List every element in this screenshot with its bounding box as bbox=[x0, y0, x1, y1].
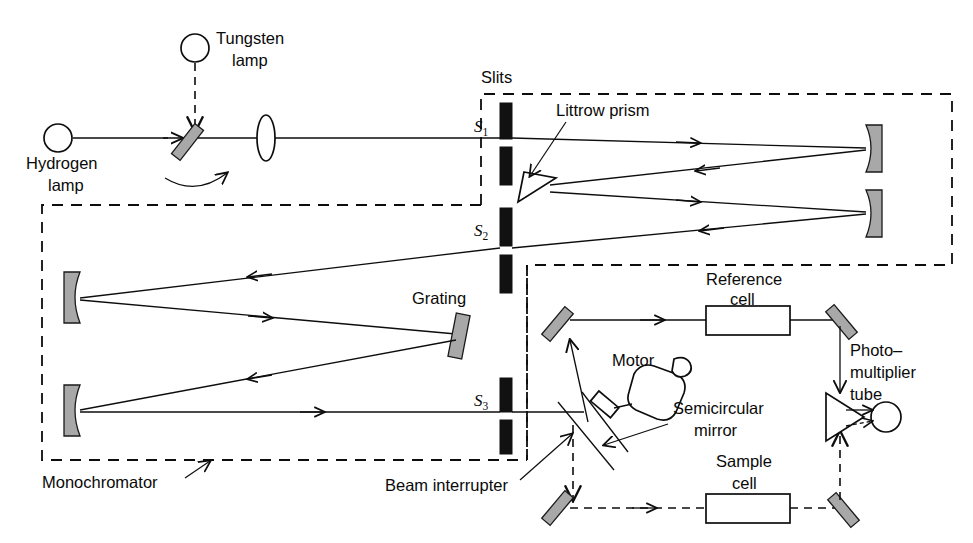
figure-canvas: Hydrogen lamp Tungsten lamp Slits S1 S2 … bbox=[0, 0, 973, 543]
pmt-label-line1: Photo– bbox=[850, 341, 903, 359]
slit-s2 bbox=[500, 208, 512, 293]
hydrogen-lamp bbox=[44, 124, 72, 152]
motor-shaft-coupler bbox=[591, 391, 619, 418]
semicircular-mirror-label-line1: Semicircular bbox=[673, 399, 764, 417]
littrow-prism-label: Littrow prism bbox=[556, 101, 650, 119]
condensing-lens bbox=[257, 115, 275, 161]
mirror-rotation-arrow bbox=[165, 173, 227, 186]
monochromator-label: Monochromator bbox=[42, 473, 158, 491]
beam-upper-mirror-to-prism bbox=[550, 150, 866, 185]
sample-cell-label-line2: cell bbox=[732, 474, 757, 492]
beam-interrupter-label: Beam interrupter bbox=[385, 476, 508, 494]
optical-diagram: Hydrogen lamp Tungsten lamp Slits S1 S2 … bbox=[0, 0, 973, 543]
rotating-mirror bbox=[171, 124, 203, 161]
beam-prism-to-lower-mirror bbox=[550, 192, 866, 212]
hydrogen-lamp-label-line2: lamp bbox=[48, 176, 84, 194]
sample-fold-mirror-left bbox=[542, 491, 574, 526]
grating-mirror-lower bbox=[64, 385, 80, 436]
grating-label: Grating bbox=[412, 289, 466, 307]
hydrogen-lamp-label-line1: Hydrogen bbox=[26, 154, 98, 172]
sample-cell-label-line1: Sample bbox=[716, 452, 772, 470]
reference-cell-label-line2: cell bbox=[730, 290, 755, 308]
reference-cell-label-line1: Reference bbox=[706, 270, 782, 288]
monochromator-leader bbox=[185, 461, 210, 478]
grating-mirror-upper bbox=[64, 272, 80, 323]
beam-lower-mirror-to-s2 bbox=[512, 214, 866, 248]
beam-upper-left-mirror-to-grating bbox=[80, 300, 456, 334]
slit-s1-label: S1 bbox=[474, 117, 489, 138]
semicircular-mirror-label-line2: mirror bbox=[694, 421, 738, 439]
beam-arrow-mono-left-2 bbox=[248, 375, 272, 379]
slits-label: Slits bbox=[481, 68, 512, 86]
grating bbox=[448, 313, 470, 359]
slit-s3-label: S3 bbox=[474, 391, 489, 412]
motor-label: Motor bbox=[612, 351, 655, 369]
beam-chopper-to-ref-mirror bbox=[570, 340, 588, 422]
pmt-label-line2: multiplier bbox=[850, 363, 917, 381]
reference-fold-mirror-right bbox=[826, 305, 858, 340]
tungsten-lamp bbox=[181, 34, 209, 62]
beam-grating-to-lower-left-mirror bbox=[80, 340, 456, 410]
pmt-label-line3: tube bbox=[850, 385, 882, 403]
littrow-prism bbox=[518, 172, 556, 202]
semicircular-mirror-leader bbox=[604, 424, 668, 445]
sample-cell bbox=[706, 494, 790, 523]
slit-s3 bbox=[500, 378, 512, 454]
slit-s1 bbox=[500, 103, 512, 185]
littrow-prism-leader bbox=[530, 122, 566, 176]
reference-fold-mirror-left bbox=[542, 307, 574, 342]
slit-s2-label: S2 bbox=[474, 221, 489, 242]
tungsten-lamp-label-line1: Tungsten bbox=[216, 29, 284, 47]
prism-mirror-lower bbox=[866, 190, 882, 237]
tungsten-lamp-label-line2: lamp bbox=[232, 51, 268, 69]
sample-fold-mirror-right bbox=[828, 493, 860, 528]
prism-mirror-upper bbox=[866, 125, 882, 172]
reference-cell bbox=[706, 306, 790, 335]
